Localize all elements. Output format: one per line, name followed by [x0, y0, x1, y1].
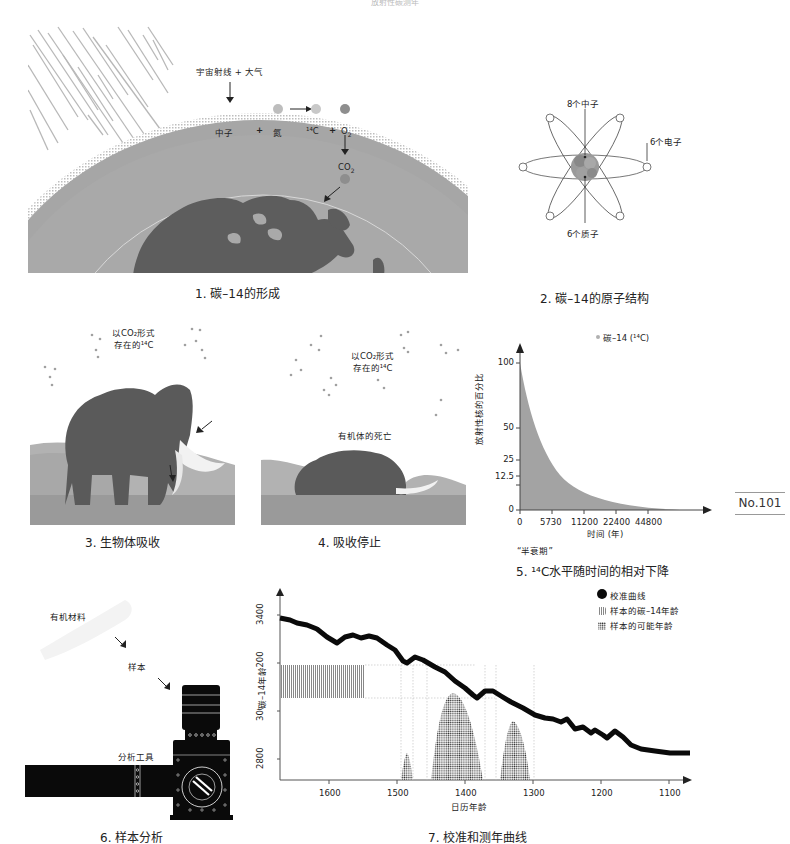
legend-item-c14-age: 样本的碳–14年龄 — [610, 604, 679, 616]
organic-material-label: 有机材料 — [50, 610, 86, 622]
o2-text: O — [341, 126, 348, 136]
plus-sign: + — [256, 125, 263, 135]
c14-particle-icon — [311, 104, 321, 114]
xtick: 44800 — [635, 517, 662, 527]
arrow-down-icon — [226, 97, 234, 103]
neutrons-label: 8个中子 — [567, 97, 599, 109]
decay-area — [520, 363, 680, 510]
caption-panel6: 6. 样本分析 — [100, 828, 163, 844]
panel-absorption-stops: 以CO₂形式 存在的¹⁴C 有机体的死亡 — [256, 320, 466, 525]
nitrogen-label: 氮 — [273, 126, 282, 138]
caption-panel7: 7. 校准和测年曲线 — [428, 828, 527, 844]
caption-panel4: 4. 吸收停止 — [318, 533, 381, 550]
xtick: 1200 — [591, 788, 613, 798]
protons-label: 6个质子 — [567, 227, 599, 239]
organic-material-icon — [40, 600, 132, 660]
possible-age-peak — [401, 753, 413, 780]
xtick: 0 — [517, 517, 522, 527]
header-text: 放射性碳测年 — [300, 0, 490, 6]
plus-sign: + — [329, 125, 336, 135]
x-axis-arrow-icon — [683, 776, 692, 784]
co2-label-line2: 存在的¹⁴C — [112, 339, 155, 351]
co2-subscript: 2 — [351, 167, 355, 174]
xtick: 1500 — [387, 788, 409, 798]
caption-panel5: 5. ¹⁴C水平随时间的相对下降 — [516, 562, 669, 579]
legend-swatch — [596, 335, 600, 339]
xtick: 1600 — [319, 788, 341, 798]
chart7-ylabel: 碳–14年龄 — [255, 667, 267, 709]
caption-panel1: 1. 碳–14的形成 — [195, 284, 280, 301]
legend-item-calibration: 校准曲线 — [610, 589, 646, 601]
x-axis-arrow-icon — [703, 506, 712, 514]
y-axis-arrow-icon — [276, 588, 284, 596]
oxygen-particle-icon — [340, 104, 350, 114]
o2-subscript: 2 — [348, 131, 352, 138]
analyzer-illustration — [25, 590, 245, 820]
xtick: 11200 — [571, 517, 598, 527]
electrons-label: 6个电子 — [650, 135, 682, 147]
panel-atomic-structure: 8个中子 6个电子 6个质子 — [510, 95, 680, 245]
co2-label-line2: 存在的¹⁴C — [351, 362, 394, 374]
chart5-ylabel: 放射性核的百分比 — [472, 373, 484, 445]
chart5-legend: 碳–14 (¹⁴C) — [603, 331, 649, 343]
co2-c14-label: 以CO₂形式 存在的¹⁴C — [351, 350, 394, 374]
earth-atmosphere-illustration — [28, 25, 468, 275]
legend-possible-swatch — [598, 622, 606, 630]
halflife-label: “半衰期” — [517, 544, 553, 556]
y-axis-arrow-icon — [516, 343, 524, 353]
ytick: 3400 — [255, 603, 265, 625]
xtick: 1300 — [523, 788, 545, 798]
cosmic-ray-label: 宇宙射线 + 大气 — [196, 65, 263, 77]
xtick: 1400 — [455, 788, 477, 798]
c14-age-band — [281, 665, 365, 698]
dead-mammoth-icon — [295, 450, 406, 495]
chart7-xlabel: 日历年龄 — [451, 800, 487, 812]
co2-label-line1: 以CO₂形式 — [351, 350, 394, 362]
legend-c14-swatch — [598, 607, 606, 615]
arrow-icon — [120, 640, 126, 648]
ytick: 50 — [496, 422, 514, 432]
caption-panel2: 2. 碳–14的原子结构 — [540, 289, 649, 306]
legend-item-possible-age: 样本的可能年龄 — [610, 619, 673, 631]
o2-label: O2 — [341, 126, 352, 138]
possible-age-peak — [500, 721, 530, 780]
panel-decay-chart: 碳–14 (¹⁴C) 放射性核的百分比 100 50 25 12.5 0 0 5… — [470, 320, 720, 535]
mammoth-alive-illustration — [30, 325, 240, 525]
neutron-label: 中子 — [215, 126, 233, 138]
atom-diagram-icon — [510, 95, 680, 245]
xtick: 22400 — [603, 517, 630, 527]
co2-particle-icon — [340, 174, 350, 184]
co2-text: CO — [338, 162, 351, 172]
chart5-xlabel: 时间 (年) — [587, 527, 623, 539]
analysis-tool-label: 分析工具 — [118, 750, 154, 762]
arrow-icon — [164, 682, 170, 690]
co2-label: CO2 — [338, 162, 354, 174]
possible-age-peak — [431, 693, 483, 780]
ytick: 2800 — [255, 747, 265, 769]
panel-organism-absorption: 以CO₂形式 存在的¹⁴C — [30, 325, 240, 525]
nitrogen-particle-icon — [273, 104, 283, 114]
ytick: 12.5 — [490, 471, 514, 481]
co2-c14-label: 以CO₂形式 存在的¹⁴C — [112, 327, 155, 351]
c14-label: ¹⁴C — [306, 126, 319, 136]
legend-curve-swatch — [597, 589, 607, 599]
panel-calibration-chart: 校准曲线 样本的碳–14年龄 样本的可能年龄 3400 3200 3000 28… — [245, 585, 695, 825]
sample-inlet — [182, 685, 220, 730]
ytick: 25 — [496, 454, 514, 464]
xtick: 1100 — [659, 788, 681, 798]
panel-carbon14-formation: 宇宙射线 + 大气 中子 + 氮 ¹⁴C + O2 CO2 — [28, 25, 468, 275]
page-number-badge: No.101 — [735, 492, 785, 515]
death-label: 有机体的死亡 — [338, 429, 392, 441]
xtick: 5730 — [540, 517, 562, 527]
co2-label-line1: 以CO₂形式 — [112, 327, 155, 339]
neutron-particle-icon — [224, 103, 236, 115]
sample-label: 样本 — [128, 660, 146, 672]
page-header-partial: 放射性碳测年 — [300, 0, 490, 6]
panel-sample-analysis: 有机材料 样本 分析工具 — [25, 590, 245, 820]
caption-panel3: 3. 生物体吸收 — [85, 533, 160, 550]
ytick: 0 — [496, 504, 514, 514]
ytick: 100 — [496, 357, 514, 367]
analyzer-tube — [25, 765, 180, 797]
